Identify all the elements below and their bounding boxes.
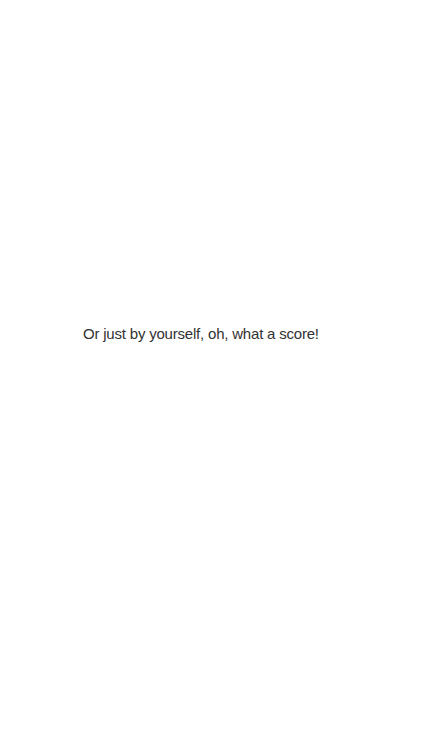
blank-page: Or just by yourself, oh, what a score! <box>0 0 440 745</box>
sentence-text: Or just by yourself, oh, what a score! <box>83 326 319 341</box>
